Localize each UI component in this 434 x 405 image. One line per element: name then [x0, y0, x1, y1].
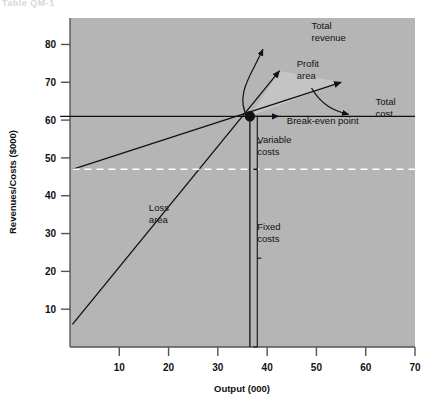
- break-even-chart-figure: Table QM-1 1020304050607080 102030405060…: [0, 0, 434, 405]
- y-tick-label: 10: [45, 304, 57, 315]
- y-tick-label: 70: [45, 77, 57, 88]
- y-tick-label: 20: [45, 266, 57, 277]
- x-tick-label: 30: [212, 362, 224, 373]
- y-tick-label: 50: [45, 153, 57, 164]
- y-axis-ticks: 1020304050607080: [45, 39, 70, 315]
- break-even-label: Break-even point: [287, 115, 359, 126]
- x-tick-label: 70: [409, 362, 421, 373]
- x-axis-ticks: 10203040506070: [114, 347, 421, 373]
- total-cost-label: Totalcost: [376, 96, 396, 119]
- y-axis-title: Revenues/Costs ($000): [7, 130, 18, 234]
- x-tick-label: 60: [360, 362, 372, 373]
- fixed-costs-label: Fixedcosts: [257, 221, 280, 244]
- x-tick-label: 10: [114, 362, 126, 373]
- y-tick-label: 80: [45, 39, 57, 50]
- y-tick-label: 40: [45, 190, 57, 201]
- chart-canvas: 1020304050607080 10203040506070 Totalrev…: [0, 0, 434, 405]
- y-tick-label: 60: [45, 115, 57, 126]
- x-tick-label: 40: [262, 362, 274, 373]
- plot-area-background: [70, 18, 415, 347]
- x-axis-title: Output (000): [214, 383, 270, 394]
- loss-area-label: Lossarea: [149, 202, 169, 225]
- y-tick-label: 30: [45, 228, 57, 239]
- x-tick-label: 50: [311, 362, 323, 373]
- x-tick-label: 20: [163, 362, 175, 373]
